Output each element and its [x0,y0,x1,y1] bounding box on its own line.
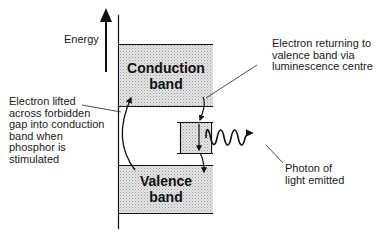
annotation-line: luminescence centre [272,61,373,73]
annotation-line: stimulated [9,154,104,166]
valence-band-label: Valence band [119,173,213,205]
annotation-photon-emitted: Photon of light emitted [285,163,344,186]
annotation-line: Electron lifted [9,96,104,108]
leader-line-photon [266,145,283,163]
annotation-line: gap into conduction [9,119,104,131]
conduction-band-label: Conduction band [119,60,213,92]
annotation-line: phosphor is [9,142,104,154]
annotation-electron-lifted: Electron lifted across forbidden gap int… [9,96,104,165]
leader-line-returning [206,65,257,98]
energy-axis-label: Energy [64,34,99,46]
conduction-band-label-line2: band [119,76,213,92]
electron-lifted-arrow [122,98,135,170]
valence-band-label-line1: Valence [119,173,213,189]
annotation-line: light emitted [285,175,344,187]
annotation-line: Photon of [285,163,344,175]
annotation-line: Electron returning to [272,38,373,50]
luminescence-centre [177,122,213,154]
conduction-band-label-line1: Conduction [119,60,213,76]
valence-band-label-line2: band [119,189,213,205]
photon-wave-icon [206,130,252,145]
annotation-electron-returning: Electron returning to valence band via l… [272,38,373,73]
energy-axis-arrow [100,8,112,72]
